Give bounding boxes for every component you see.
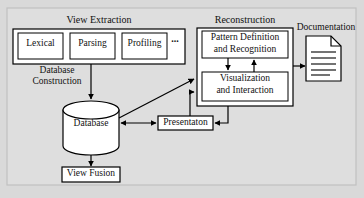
reconstruction-group-label: Reconstruction [197,15,293,25]
documentation-label: Documentation [288,23,364,33]
parsing-label: Parsing [70,39,115,49]
view-fusion-label: View Fusion [62,169,120,179]
view-extraction-group-label: View Extraction [13,15,185,25]
diagram-canvas: View Extraction Lexical Parsing Profilin… [0,0,364,198]
database-construction-label-line1: Database [28,66,86,76]
lexical-label: Lexical [18,39,63,49]
pattern-definition-label-line1: Pattern Definition [202,33,288,43]
database-construction-label-line2: Construction [20,77,94,87]
database-label: Database [63,119,119,129]
pattern-definition-label-line2: and Recognition [202,45,288,55]
database-cylinder-top [63,101,119,119]
visualization-label-line1: Visualization [202,74,288,84]
presentation-label: Presentaton [158,118,213,128]
profiling-label: Profiling [122,39,167,49]
view-extraction-ellipsis-label: ... [168,34,182,44]
visualization-label-line2: and Interaction [202,86,288,96]
